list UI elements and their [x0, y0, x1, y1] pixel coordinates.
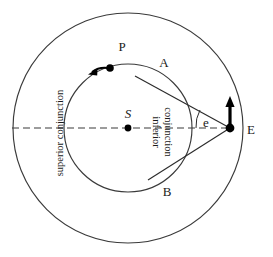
sun-dot	[125, 125, 132, 132]
superior-conjunction-label: superior conjunction	[54, 89, 65, 176]
planet-motion-arrow-head	[88, 68, 98, 75]
elongation-east-label: A	[159, 55, 169, 70]
orbit-diagram-svg: P S E A B e superior conjunction inferio…	[0, 0, 273, 257]
sun-label: S	[125, 106, 132, 121]
elongation-angle-arc	[196, 110, 200, 128]
inferior-conjunction-label-line2: conjunction	[163, 107, 174, 157]
planet-label: P	[118, 39, 125, 54]
conjunction-diagram: P S E A B e superior conjunction inferio…	[0, 0, 273, 257]
elongation-angle-label: e	[203, 115, 209, 130]
earth-motion-arrow-head	[225, 96, 234, 107]
tangent-line-to-a	[135, 76, 230, 128]
elongation-west-label: B	[163, 184, 172, 199]
earth-label: E	[247, 122, 255, 137]
inferior-conjunction-label-line1: inferior	[151, 116, 162, 148]
